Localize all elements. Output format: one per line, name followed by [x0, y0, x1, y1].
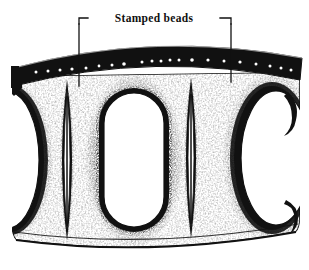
band-body	[0, 70, 309, 250]
leader-line-right	[220, 18, 231, 24]
annotation-label: Stamped beads	[115, 12, 194, 25]
band-left-terminus	[11, 66, 19, 88]
illustration-canvas: Stamped beads	[0, 0, 309, 270]
illustration-figure: Stamped beads	[0, 0, 309, 270]
oval-opening-center	[84, 72, 184, 248]
leader-line-left	[79, 18, 88, 24]
